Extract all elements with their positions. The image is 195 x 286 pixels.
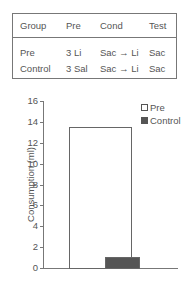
legend-item-pre: Pre — [141, 101, 181, 114]
legend-item-control: Control — [141, 114, 181, 127]
cell: Sac → Li — [100, 63, 139, 74]
y-tick — [40, 205, 43, 206]
cell: Sac — [149, 63, 165, 74]
cell: Sac — [149, 47, 165, 58]
y-tick-label: 16 — [18, 95, 38, 106]
y-tick — [40, 122, 43, 123]
y-axis — [43, 101, 44, 269]
legend-label: Pre — [150, 102, 165, 113]
y-tick-label: 6 — [18, 199, 38, 210]
y-tick-label: 0 — [18, 262, 38, 273]
y-tick — [40, 226, 43, 227]
cell: Control — [20, 63, 51, 74]
legend-swatch-control — [141, 117, 148, 124]
legend: Pre Control — [141, 101, 181, 127]
y-tick-label: 2 — [18, 241, 38, 252]
cell: 3 Sal — [66, 63, 88, 74]
y-tick — [40, 143, 43, 144]
cell: Pre — [20, 47, 35, 58]
y-tick — [40, 247, 43, 248]
y-tick — [40, 185, 43, 186]
y-tick-label: 12 — [18, 137, 38, 148]
header-test: Test — [149, 20, 166, 31]
y-tick-label: 14 — [18, 116, 38, 127]
header-group: Group — [20, 20, 46, 31]
table-header: Group Pre Cond Test — [13, 14, 176, 38]
y-tick-label: 10 — [18, 158, 38, 169]
legend-swatch-pre — [141, 104, 148, 111]
y-tick-label: 4 — [18, 220, 38, 231]
y-tick-label: 8 — [18, 179, 38, 190]
conditions-table: Group Pre Cond Test Pre 3 Li Sac → Li Sa… — [12, 13, 177, 79]
header-cond: Cond — [100, 20, 123, 31]
legend-label: Control — [150, 115, 181, 126]
cell: 3 Li — [66, 47, 81, 58]
y-tick — [40, 101, 43, 102]
bar-pre — [69, 127, 132, 269]
header-pre: Pre — [66, 20, 81, 31]
bar-control — [105, 257, 140, 269]
y-tick — [40, 268, 43, 269]
y-tick — [40, 164, 43, 165]
bar-chart: Consumption (ml) 0246810121416 Pre Contr… — [0, 95, 195, 286]
cell: Sac → Li — [100, 47, 139, 58]
